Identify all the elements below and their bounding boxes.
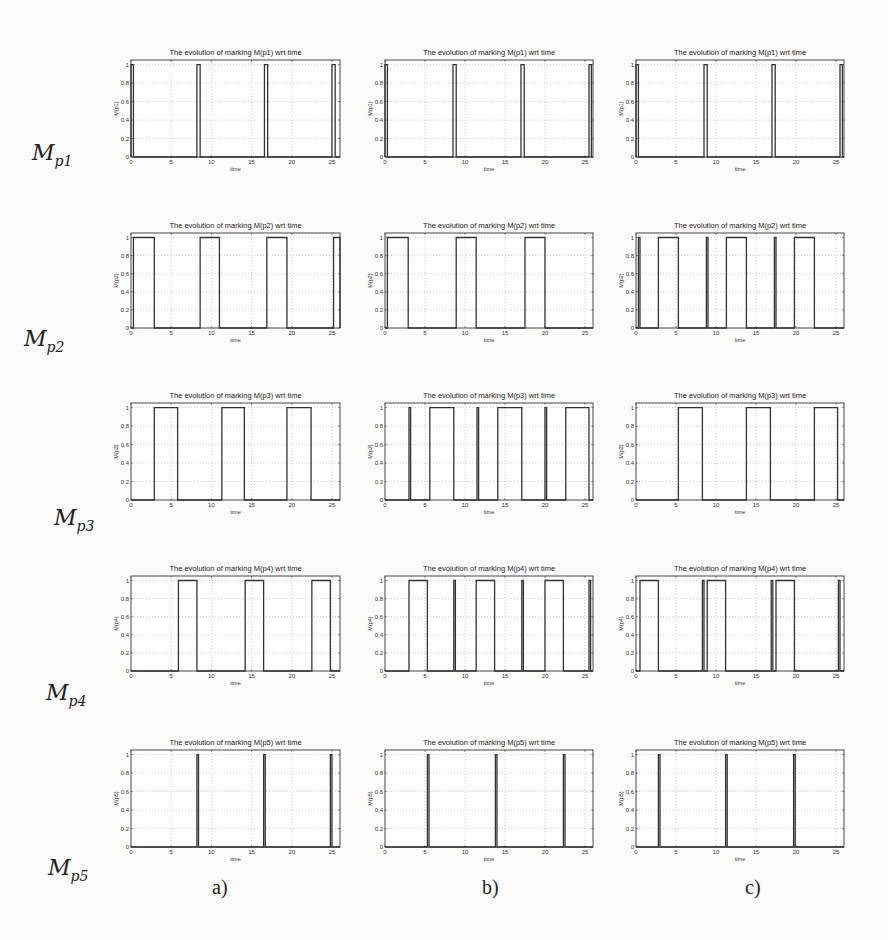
x-tick-label: 15: [502, 849, 509, 855]
plot-title: The evolution of marking M(p4) wrt time: [674, 564, 806, 573]
y-tick-label: 0.8: [626, 253, 635, 259]
x-tick-label: 10: [208, 330, 215, 336]
x-tick-label: 10: [713, 502, 720, 508]
x-tick-label: 20: [288, 159, 295, 165]
x-tick-label: 20: [542, 159, 549, 165]
x-tick-label: 15: [248, 330, 255, 336]
y-tick-label: 1: [380, 578, 384, 584]
y-tick-label: 0.6: [375, 99, 384, 105]
x-tick-label: 20: [542, 502, 549, 508]
y-tick-label: 0.4: [121, 117, 130, 123]
x-tick-label: 15: [502, 673, 509, 679]
y-axis-label: M(p2): [113, 273, 119, 288]
y-tick-label: 0.6: [626, 789, 635, 795]
y-tick-label: 0.8: [121, 253, 130, 259]
y-tick-label: 0.8: [626, 80, 635, 86]
x-tick-label: 5: [674, 502, 678, 508]
x-tick-label: 15: [753, 330, 760, 336]
plot-r5-cc: The evolution of marking M(p5) wrt time0…: [620, 734, 848, 865]
plot-title: The evolution of marking M(p1) wrt time: [674, 48, 806, 57]
y-tick-label: 0.2: [121, 479, 130, 485]
x-tick-label: 10: [713, 159, 720, 165]
y-tick-label: 1: [126, 578, 130, 584]
x-tick-label: 10: [713, 330, 720, 336]
plot-r5-cb: The evolution of marking M(p5) wrt time0…: [369, 734, 597, 865]
x-tick-label: 10: [462, 159, 469, 165]
x-tick-label: 5: [170, 849, 174, 855]
x-axis-label: time: [484, 166, 494, 172]
x-tick-label: 25: [582, 673, 589, 679]
x-tick-label: 0: [634, 849, 638, 855]
x-tick-label: 25: [833, 849, 840, 855]
x-tick-label: 25: [329, 159, 336, 165]
x-tick-label: 5: [674, 849, 678, 855]
y-tick-label: 0.4: [626, 117, 635, 123]
plot-title: The evolution of marking M(p2) wrt time: [674, 221, 806, 230]
x-tick-label: 20: [542, 330, 549, 336]
row-label-mp5: Mp5: [48, 855, 88, 884]
x-axis-label: time: [484, 509, 494, 515]
x-tick-label: 5: [423, 673, 427, 679]
y-tick-label: 0.6: [375, 442, 384, 448]
y-tick-label: 0.8: [626, 770, 635, 776]
y-axis-label: M(p5): [113, 791, 119, 806]
x-tick-label: 0: [129, 330, 133, 336]
x-tick-label: 5: [423, 159, 427, 165]
y-tick-label: 0.4: [121, 289, 130, 295]
x-tick-label: 20: [288, 673, 295, 679]
x-axis-label: time: [735, 680, 745, 686]
x-tick-label: 25: [329, 330, 336, 336]
x-axis-label: time: [735, 509, 745, 515]
y-tick-label: 0.2: [626, 826, 635, 832]
y-tick-label: 0.8: [375, 80, 384, 86]
y-tick-label: 1: [380, 235, 384, 241]
x-tick-label: 0: [129, 502, 133, 508]
x-tick-label: 5: [170, 159, 174, 165]
x-tick-label: 15: [753, 502, 760, 508]
x-tick-label: 5: [423, 330, 427, 336]
x-tick-label: 15: [502, 159, 509, 165]
plot-r3-ca: The evolution of marking M(p3) wrt time0…: [115, 387, 344, 518]
y-tick-label: 1: [126, 405, 130, 411]
y-tick-label: 0.4: [121, 807, 130, 813]
y-axis-label: M(p2): [367, 273, 373, 288]
y-axis-label: M(p4): [113, 616, 119, 631]
plot-r2-ca: The evolution of marking M(p2) wrt time0…: [115, 217, 344, 346]
y-tick-label: 0.2: [626, 307, 635, 313]
y-tick-label: 0.8: [375, 423, 384, 429]
plot-title: The evolution of marking M(p3) wrt time: [423, 391, 555, 400]
y-tick-label: 0.4: [375, 117, 384, 123]
plot-r5-ca: The evolution of marking M(p5) wrt time0…: [115, 734, 344, 865]
x-tick-label: 25: [833, 330, 840, 336]
y-tick-label: 0.8: [626, 596, 635, 602]
y-axis-label: M(p1): [367, 101, 373, 116]
y-tick-label: 0.8: [121, 770, 130, 776]
x-axis-label: time: [230, 166, 240, 172]
x-tick-label: 10: [208, 673, 215, 679]
x-tick-label: 25: [582, 159, 589, 165]
y-tick-label: 0.6: [121, 271, 130, 277]
y-tick-label: 0.8: [121, 423, 130, 429]
y-tick-label: 0.8: [375, 770, 384, 776]
y-tick-label: 0.6: [626, 99, 635, 105]
x-axis-label: time: [484, 856, 494, 862]
plot-r4-ca: The evolution of marking M(p4) wrt time0…: [115, 560, 344, 689]
x-axis-label: time: [484, 680, 494, 686]
row-label-mp3: Mp3: [54, 505, 94, 534]
y-tick-label: 0.4: [375, 289, 384, 295]
x-tick-label: 0: [634, 673, 638, 679]
x-tick-label: 0: [129, 159, 133, 165]
y-tick-label: 0.2: [626, 136, 635, 142]
y-tick-label: 0.4: [375, 632, 384, 638]
y-tick-label: 0.4: [626, 460, 635, 466]
x-axis-label: time: [735, 337, 745, 343]
y-axis-label: M(p4): [367, 616, 373, 631]
x-tick-label: 10: [462, 849, 469, 855]
plot-r3-cc: The evolution of marking M(p3) wrt time0…: [620, 387, 848, 518]
plot-r4-cb: The evolution of marking M(p4) wrt time0…: [369, 560, 597, 689]
y-tick-label: 1: [126, 752, 130, 758]
plot-r1-ca: The evolution of marking M(p1) wrt time0…: [115, 44, 344, 175]
x-tick-label: 25: [329, 673, 336, 679]
x-tick-label: 20: [288, 330, 295, 336]
x-tick-label: 0: [634, 502, 638, 508]
